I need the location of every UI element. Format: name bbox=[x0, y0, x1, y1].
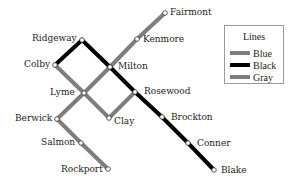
station-label-rosewood: Rosewood bbox=[144, 86, 190, 97]
station-label-ridgeway: Ridgeway bbox=[32, 33, 77, 44]
station-label-clay: Clay bbox=[114, 116, 134, 127]
station-rockport-icon bbox=[106, 167, 111, 172]
station-label-fairmont: Fairmont bbox=[170, 7, 212, 18]
legend-label-gray: Gray bbox=[253, 72, 273, 83]
station-clay-icon bbox=[107, 116, 112, 121]
station-label-salmon: Salmon bbox=[41, 137, 75, 148]
route-black-line bbox=[55, 40, 214, 170]
station-label-blake: Blake bbox=[221, 165, 247, 176]
gray-line-swatch-icon bbox=[230, 75, 250, 79]
legend-label-black: Black bbox=[253, 60, 276, 71]
station-label-conner: Conner bbox=[197, 138, 231, 149]
legend: Lines Blue Black Gray bbox=[224, 25, 284, 84]
station-kenmore-icon bbox=[135, 37, 140, 42]
station-conner-icon bbox=[186, 141, 191, 146]
station-label-milton: Milton bbox=[118, 61, 148, 72]
legend-item-blue: Blue bbox=[230, 47, 272, 59]
station-fairmont-icon bbox=[163, 11, 168, 16]
station-lyme-icon bbox=[82, 91, 87, 96]
station-rosewood-icon bbox=[133, 90, 138, 95]
legend-title: Lines bbox=[225, 31, 283, 42]
blue-line-swatch-icon bbox=[230, 51, 250, 55]
station-label-kenmore: Kenmore bbox=[143, 34, 184, 45]
station-colby-icon bbox=[53, 63, 58, 68]
station-blake-icon bbox=[212, 168, 217, 173]
station-berwick-icon bbox=[55, 117, 60, 122]
legend-item-gray: Gray bbox=[230, 71, 273, 83]
legend-label-blue: Blue bbox=[253, 48, 272, 59]
station-milton-icon bbox=[108, 65, 113, 70]
station-label-berwick: Berwick bbox=[15, 113, 52, 124]
station-label-colby: Colby bbox=[24, 59, 50, 70]
station-label-brockton: Brockton bbox=[171, 112, 213, 123]
station-brockton-icon bbox=[160, 115, 165, 120]
station-salmon-icon bbox=[79, 141, 84, 146]
station-ridgeway-icon bbox=[80, 38, 85, 43]
station-label-rockport: Rockport bbox=[61, 164, 103, 175]
station-label-lyme: Lyme bbox=[50, 87, 75, 98]
black-line-swatch-icon bbox=[230, 63, 250, 67]
legend-item-black: Black bbox=[230, 59, 276, 71]
